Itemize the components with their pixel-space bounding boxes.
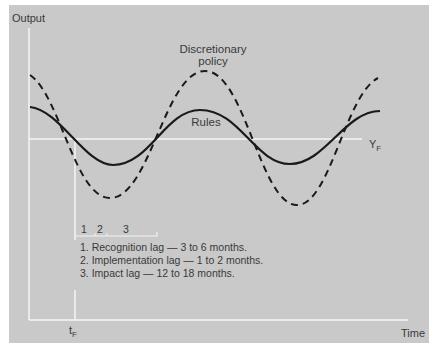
- discretionary-label: Discretionary policy: [172, 43, 254, 67]
- lag-bracket: [75, 232, 157, 236]
- lag-marker-1: 1: [81, 223, 87, 235]
- lag-marker-2: 2: [97, 223, 103, 235]
- legend-item-impact: 3. Impact lag — 12 to 18 months.: [80, 267, 263, 280]
- yf-label: YF: [369, 138, 381, 155]
- y-axis-label: Output: [12, 12, 45, 24]
- tf-label: tF: [69, 324, 77, 341]
- legend-item-implementation: 2. Implementation lag — 1 to 2 months.: [80, 254, 263, 267]
- x-axis-label: Time: [401, 327, 425, 339]
- lag-marker-3: 3: [123, 223, 129, 235]
- rules-label: Rules: [186, 116, 226, 128]
- discretionary-curve: [30, 71, 378, 205]
- legend-item-recognition: 1. Recognition lag — 3 to 6 months.: [80, 241, 263, 254]
- lag-legend: 1. Recognition lag — 3 to 6 months. 2. I…: [80, 241, 263, 280]
